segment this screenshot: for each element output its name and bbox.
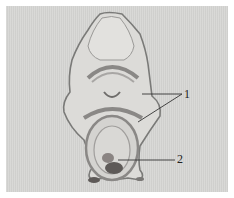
micrograph-figure: 1 2 (0, 0, 234, 198)
dark-tissue-cluster (105, 162, 123, 174)
specimen-drawing (0, 0, 234, 198)
left-foot (88, 177, 100, 183)
tissue-spot (102, 153, 114, 163)
label-1: 1 (184, 87, 190, 102)
label-2: 2 (177, 152, 183, 167)
right-foot (136, 177, 144, 181)
